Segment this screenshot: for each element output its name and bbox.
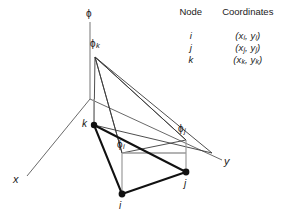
table-row: j (xj, yj): [168, 41, 282, 53]
cell-coordinates-k: (xk, yk): [214, 54, 282, 66]
node-dot-j: [183, 169, 190, 176]
node-dot-i: [119, 191, 126, 198]
node-dot-k: [91, 122, 97, 128]
phi-i-subscript: i: [123, 142, 125, 151]
cell-node-j: j: [168, 41, 214, 53]
header-coordinates: Coordinates: [214, 6, 282, 29]
phi-k-label: ϕk: [90, 39, 100, 50]
cell-coordinates-j: (xj, yj): [214, 41, 282, 53]
cell-node-k: k: [168, 54, 214, 66]
phi-i-label: ϕi: [117, 140, 125, 151]
header-node: Node: [168, 6, 214, 29]
node-label-k: k: [82, 119, 87, 129]
plane-edge-k-j: [95, 57, 186, 140]
phi-j-symbol: ϕ: [178, 123, 184, 134]
table-header-row: Node Coordinates: [168, 6, 282, 29]
coord-y-subscript-i: i: [255, 34, 257, 41]
table-row: k (xk, yk): [168, 54, 282, 66]
phi-k-symbol: ϕ: [90, 38, 96, 49]
node-coordinates-table: Node Coordinates i (xi, yi) j (xj, yj) k: [168, 6, 282, 66]
phi-j-subscript: j: [184, 126, 186, 135]
base-element-triangle: [94, 125, 186, 194]
phi-i-symbol: ϕ: [117, 139, 123, 150]
phi-k-subscript: k: [96, 41, 100, 50]
coord-y-subscript-k: k: [255, 58, 259, 65]
node-label-i: i: [119, 201, 121, 211]
coord-x-subscript-j: j: [243, 46, 245, 53]
phi-j-label: ϕj: [178, 124, 186, 135]
table-row: i (xi, yi): [168, 29, 282, 41]
x-axis-label: x: [13, 174, 19, 185]
coord-x-subscript-i: i: [243, 34, 245, 41]
node-label-j: j: [184, 179, 186, 189]
coord-y-subscript-j: j: [255, 46, 257, 53]
plane-sweep-line-right: [95, 57, 212, 153]
x-axis-line: [27, 99, 90, 176]
cell-node-i: i: [168, 29, 214, 41]
coord-x-subscript-k: k: [241, 58, 245, 65]
y-axis-label: y: [224, 156, 230, 167]
element-diagram-figure: ϕ x y ϕk ϕi ϕj k i j Node Coordinates i …: [0, 0, 287, 223]
phi-axis-label: ϕ: [86, 9, 92, 19]
cell-coordinates-i: (xi, yi): [214, 29, 282, 41]
